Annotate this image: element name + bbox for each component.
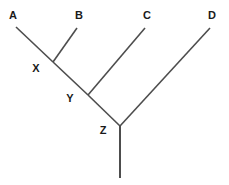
tip-label-c: C xyxy=(143,10,151,21)
branch-x-to-b xyxy=(53,28,77,62)
tip-label-d: D xyxy=(208,10,216,21)
branch-z-to-y xyxy=(88,95,120,126)
phylogenetic-tree-figure: A B C D X Y Z xyxy=(0,0,229,185)
tip-label-a: A xyxy=(9,10,17,21)
branch-x-to-a xyxy=(16,27,53,62)
tree-branches-canvas xyxy=(0,0,229,185)
tip-label-b: B xyxy=(75,10,83,21)
node-label-z: Z xyxy=(100,125,107,136)
node-label-y: Y xyxy=(66,93,73,104)
branch-y-to-c xyxy=(88,28,145,95)
node-label-x: X xyxy=(32,63,39,74)
branch-y-to-x xyxy=(53,62,88,95)
